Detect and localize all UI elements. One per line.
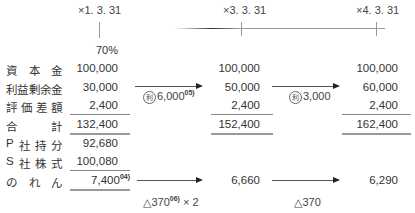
c1-goodwill-double-underline [70, 189, 130, 191]
c1-goodwill-underline [70, 170, 130, 171]
c2-capital: 100,000 [218, 62, 260, 74]
c1-capital: 100,000 [76, 62, 118, 74]
c1-retained: 30,000 [83, 81, 118, 93]
c2-underline [211, 114, 273, 115]
tick-x1 [99, 22, 100, 38]
date-x3: ×3. 3. 31 [223, 4, 266, 16]
circled-ri-icon: 利 [289, 91, 302, 104]
c3-valuation: 2,400 [369, 99, 398, 111]
date-x1: ×1. 3. 31 [78, 4, 121, 16]
c3-underline [342, 114, 411, 115]
timeline-line [175, 28, 385, 29]
arrow-retained-1 [135, 86, 201, 87]
c1-valuation: 2,400 [89, 99, 118, 111]
circled-ri-icon: 利 [143, 91, 156, 104]
c3-goodwill: 6,290 [369, 174, 398, 186]
label-valuation: 評価差額 [6, 99, 62, 115]
c3-retained: 60,000 [363, 81, 398, 93]
c1-p-share: 92,680 [83, 137, 118, 149]
label-capital: 資本金 [6, 62, 62, 78]
c2-valuation: 2,400 [231, 99, 260, 111]
annotation-retained-1: 利6,00005) [143, 90, 195, 104]
c2-total: 152,400 [218, 118, 260, 130]
annotation-retained-2: 利3,000 [289, 90, 331, 104]
c3-total: 162,400 [356, 118, 398, 130]
ownership-percent: 70% [96, 44, 118, 56]
arrow-goodwill-2 [272, 180, 338, 181]
label-total: 合計 [6, 118, 62, 134]
c1-goodwill: 7,40004) [91, 174, 130, 186]
c1-total-underline [70, 133, 130, 135]
c2-goodwill: 6,660 [231, 174, 260, 186]
arrow-retained-2 [272, 86, 338, 87]
c1-s-stock: 100,080 [76, 155, 118, 167]
c3-capital: 100,000 [356, 62, 398, 74]
label-p-share: P社持分 [6, 137, 62, 153]
c3-total-underline [342, 133, 411, 135]
c2-retained: 50,000 [225, 81, 260, 93]
arrow-goodwill-1 [137, 180, 201, 181]
label-retained: 利益剰余金 [6, 81, 62, 97]
tick-x4 [376, 22, 377, 36]
label-goodwill: のれん [6, 174, 62, 190]
footnote-06: 06) [170, 195, 180, 202]
c1-underline [70, 114, 130, 115]
c1-total: 132,400 [76, 118, 118, 130]
tick-x3 [241, 22, 242, 36]
label-s-stock: S社株式 [6, 155, 62, 171]
annotation-goodwill-1: △37006) × 2 [143, 196, 199, 209]
annotation-goodwill-2: △370 [294, 196, 321, 209]
footnote-04: 04) [120, 173, 130, 180]
date-x4: ×4. 3. 31 [356, 4, 399, 16]
c2-total-underline [211, 133, 273, 135]
footnote-05: 05) [185, 89, 195, 96]
